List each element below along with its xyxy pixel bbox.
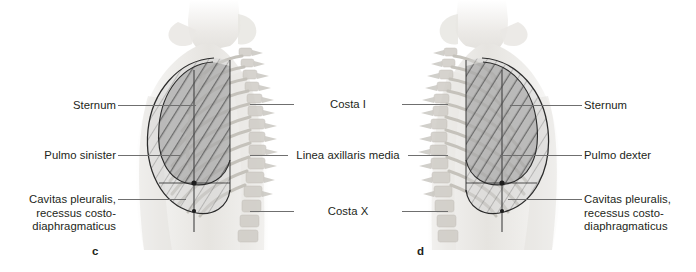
cavitas-left-line-1: Cavitas pleuralis, xyxy=(29,193,116,205)
thorax-svg-c xyxy=(118,0,298,250)
thorax-svg-d xyxy=(398,0,578,250)
leader-pulmo-dexter xyxy=(500,155,582,156)
leader-costa-i-right xyxy=(402,104,448,105)
panel-letter-c: c xyxy=(92,245,98,257)
label-cavitas-pleuralis-left: Cavitas pleuralis, recessus costo- diaph… xyxy=(10,193,116,234)
cavitas-left-line-3: diaphragmaticus xyxy=(32,220,116,232)
figure-panel-c xyxy=(118,0,298,250)
label-linea-axillaris-media: Linea axillaris media xyxy=(290,149,406,163)
leader-linea-axillaris-right xyxy=(408,155,448,156)
cavitas-right-line-2: recessus costo- xyxy=(584,207,664,219)
illustration-canvas: Sternum Pulmo sinister Cavitas pleuralis… xyxy=(0,0,696,272)
marker-dot-recess-d xyxy=(500,209,504,213)
label-sternum-left: Sternum xyxy=(12,99,116,113)
leader-costa-x-right xyxy=(402,211,448,212)
label-costa-i: Costa I xyxy=(296,98,400,112)
thorax-drawing-d xyxy=(398,0,578,250)
figure-panel-d xyxy=(398,0,578,250)
leader-pulmo-sinister xyxy=(118,155,180,156)
leader-sternum-left xyxy=(118,105,196,106)
marker-dot-costa-x-d xyxy=(499,180,504,185)
label-cavitas-pleuralis-right: Cavitas pleuralis, recessus costo- diaph… xyxy=(584,193,696,234)
marker-dot-costa-x-c xyxy=(191,180,196,185)
leader-cavitas-pleuralis-right xyxy=(508,199,582,200)
cavitas-left-line-2: recessus costo- xyxy=(36,207,116,219)
thorax-drawing-c xyxy=(118,0,298,250)
leader-costa-x-left xyxy=(250,211,294,212)
leader-cavitas-pleuralis-left xyxy=(118,199,186,200)
marker-dot-recess-c xyxy=(192,209,196,213)
label-pulmo-dexter: Pulmo dexter xyxy=(584,149,694,163)
panel-letter-d: d xyxy=(417,245,424,257)
leader-linea-axillaris-left xyxy=(250,155,288,156)
label-sternum-right: Sternum xyxy=(584,99,694,113)
leader-costa-i-left xyxy=(250,104,294,105)
cavitas-right-line-1: Cavitas pleuralis, xyxy=(584,193,671,205)
cavitas-right-line-3: diaphragmaticus xyxy=(584,220,668,232)
label-pulmo-sinister: Pulmo sinister xyxy=(12,149,116,163)
label-costa-x: Costa X xyxy=(296,205,400,219)
leader-sternum-right xyxy=(510,105,582,106)
